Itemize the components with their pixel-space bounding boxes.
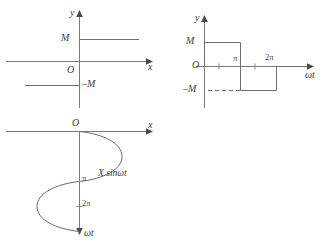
top-right-y-axis-arrow <box>201 15 208 22</box>
top-left-x-axis-label: x <box>148 62 152 72</box>
top-right-tick-label-pi: π <box>233 54 237 63</box>
panel-top-right-graphics <box>196 15 314 108</box>
figure-canvas <box>0 0 331 251</box>
bottom-left-tick-label-pi: π <box>82 174 86 183</box>
panel-bottom-left-graphics <box>6 128 153 235</box>
top-right-positive-level-label: M <box>186 36 194 46</box>
panel-top-left-graphics <box>6 10 153 108</box>
top-right-tick-label-two-pi: 2π <box>265 53 274 62</box>
top-left-origin-label: O <box>67 65 74 75</box>
top-right-x-axis-label: ωt <box>305 70 315 80</box>
top-left-positive-level-label: M <box>61 33 69 43</box>
top-left-negative-level-label: –M <box>82 79 95 89</box>
top-left-y-axis-label: y <box>70 8 74 18</box>
bottom-left-curve-label: X sinωt <box>98 169 127 179</box>
bottom-left-origin-label: O <box>72 118 79 128</box>
bottom-left-tick-label-two-pi: 2π <box>82 199 91 208</box>
bottom-left-x-axis-label: x <box>148 120 152 130</box>
figure-root: y x O M –M y ωt O M –M π 2π O x π 2π ωt … <box>0 0 331 251</box>
top-right-origin-label: O <box>192 60 199 70</box>
top-left-y-axis-arrow <box>76 10 83 17</box>
top-right-negative-level-label: –M <box>183 84 196 94</box>
bottom-left-omega-t-axis-label: ωt <box>84 228 94 238</box>
top-right-y-axis-label: y <box>195 13 199 23</box>
